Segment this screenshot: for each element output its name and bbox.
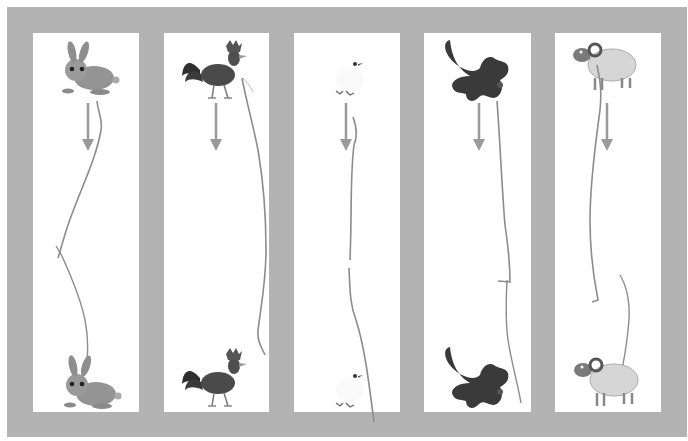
panel-rooster bbox=[164, 33, 269, 412]
panel-dog bbox=[424, 33, 531, 412]
panel-rabbit bbox=[33, 33, 139, 412]
panel-chick bbox=[294, 33, 400, 412]
panel-ram bbox=[555, 33, 661, 412]
